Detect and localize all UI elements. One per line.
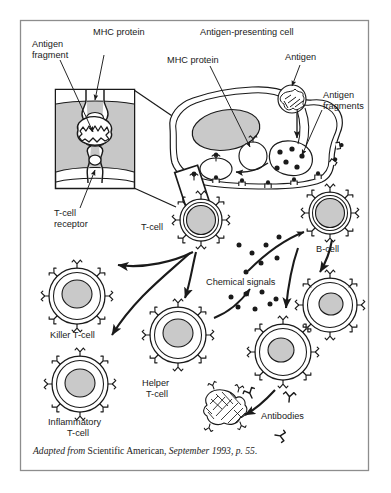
- label-antigen: Antigen: [285, 52, 316, 62]
- label-antibodies: Antibodies: [261, 411, 304, 421]
- label-t-cell-receptor-line2: receptor: [54, 219, 88, 229]
- label-antigen-presenting-cell: Antigen-presenting cell: [200, 27, 293, 37]
- label-t-cell-receptor-line1: T-cell: [54, 208, 76, 218]
- label-antigen-fragments-line2: fragments: [323, 101, 364, 111]
- label-inflammatory-t-cell-line2: T-cell: [67, 428, 89, 438]
- t-cell-nucleus: [187, 206, 216, 235]
- label-antigen-fragment-line2: fragment: [32, 50, 69, 60]
- label-inflammatory-t-cell-line1: Inflammatory: [48, 417, 102, 427]
- label-killer-t-cell: Killer T-cell: [50, 330, 95, 340]
- label-chemical-signals: Chemical signals: [206, 277, 276, 287]
- helper-t-cell-nucleus: [163, 319, 193, 347]
- label-mhc-protein-apc: MHC protein: [167, 55, 219, 65]
- caption-lead: Adapted from: [32, 445, 85, 456]
- inflammatory-t-cell-nucleus: [65, 369, 95, 397]
- antigen-fragment-shape: [77, 117, 111, 146]
- killer-t-cell-nucleus: [62, 280, 92, 308]
- caption-date: September 1993, p. 55.: [169, 445, 257, 456]
- activated-b-cell-nucleus: [319, 293, 343, 315]
- antigen-particle: [278, 85, 306, 113]
- label-helper-t-cell-line2: T-cell: [146, 389, 168, 399]
- figure-caption: Adapted from Scientific American, Septem…: [32, 445, 257, 456]
- label-t-cell: T-cell: [141, 222, 163, 232]
- plasma-cell-nucleus: [268, 338, 294, 362]
- caption-source: Scientific American,: [88, 445, 167, 456]
- immunology-figure: Antigen fragment MHC protein T-cell rece…: [0, 0, 391, 493]
- label-mhc-protein-inset: MHC protein: [93, 27, 145, 37]
- label-antigen-fragment-line1: Antigen: [32, 39, 63, 49]
- label-helper-t-cell-line1: Helper: [142, 378, 169, 388]
- b-cell-nucleus: [316, 199, 345, 228]
- label-b-cell: B-cell: [316, 244, 339, 254]
- label-antigen-fragments-line1: Antigen: [323, 90, 354, 100]
- tcr-domain: [89, 155, 101, 165]
